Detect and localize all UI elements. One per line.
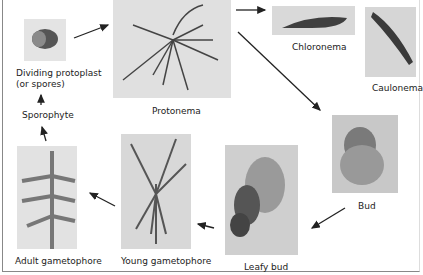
arrow-protonema-to-bud [238, 32, 320, 110]
arrow-adult-to-sporophyte [42, 127, 46, 141]
arrow-protoplast-to-protonema [74, 25, 108, 38]
arrow-young-to-adult [90, 193, 115, 206]
arrow-bud-to-leafy-bud [312, 208, 345, 228]
arrow-leafy-bud-to-young [198, 224, 214, 228]
